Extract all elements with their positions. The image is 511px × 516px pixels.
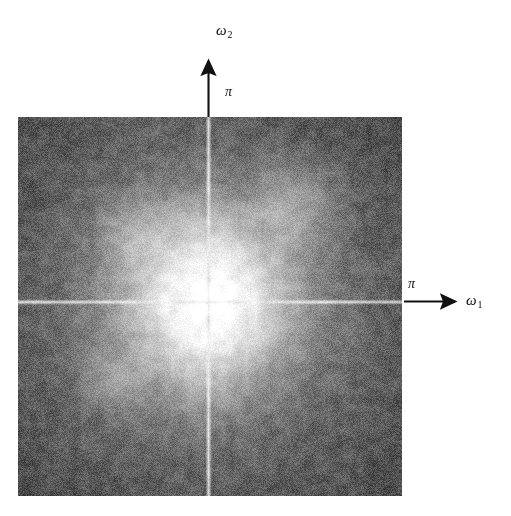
omega2-axis-label: ω2	[216, 22, 233, 40]
spectrum-raster	[18, 117, 402, 496]
omega2-symbol: ω	[216, 22, 227, 38]
omega2-pi-tick-label: π	[225, 84, 232, 100]
fourier-spectrum-image	[18, 117, 402, 496]
omega1-pi-tick-label: π	[408, 276, 415, 292]
omega1-subscript: 1	[477, 299, 483, 310]
omega1-symbol: ω	[466, 292, 477, 308]
omega2-subscript: 2	[227, 29, 233, 40]
figure-container: ω2 π ω1 π	[0, 0, 511, 516]
omega1-axis-label: ω1	[466, 292, 483, 310]
